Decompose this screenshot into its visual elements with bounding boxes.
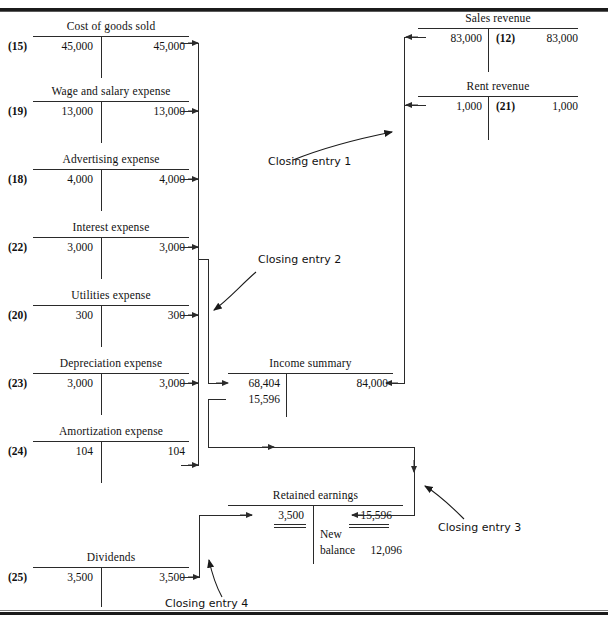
callout-arrow-closing-entry-3 [425, 486, 464, 519]
arrowheads-into-left-bus [188, 43, 199, 577]
label-closing-entry-2: Closing entry 2 [258, 253, 341, 266]
label-closing-entry-1: Closing entry 1 [268, 155, 351, 168]
callout-arrow-closing-entry-2 [214, 272, 256, 310]
label-closing-entry-4: Closing entry 4 [165, 597, 248, 610]
figure-canvas: Cost of goods sold (15) 45,000 45,000 Wa… [0, 0, 608, 625]
label-closing-entry-3: Closing entry 3 [438, 521, 521, 534]
callout-arrow-closing-entry-4 [209, 560, 222, 597]
